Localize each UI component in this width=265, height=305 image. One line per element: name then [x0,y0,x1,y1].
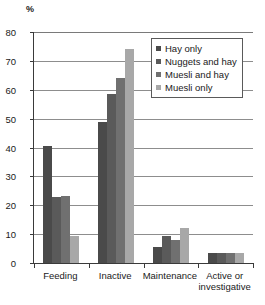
legend-label: Muesli and hay [165,70,229,80]
legend-item: Muesli and hay [156,68,237,81]
legend-item: Muesli only [156,81,237,94]
y-tick-mark [30,205,34,206]
category-label: Active or investigative [197,270,252,292]
bar [226,253,235,263]
legend-swatch-icon [156,59,161,64]
y-tick-label: 50 [0,115,16,124]
x-tick-mark [198,263,199,268]
bar [116,78,125,263]
y-tick-mark [30,234,34,235]
legend-item: Hay only [156,42,237,55]
y-tick-mark [30,119,34,120]
y-tick-mark [30,32,34,33]
y-tick-label: 30 [0,172,16,181]
legend: Hay onlyNuggets and hayMuesli and hayMue… [151,38,243,98]
y-tick-label: 40 [0,144,16,153]
y-tick-mark [30,90,34,91]
y-tick-label: 80 [0,28,16,37]
bar [61,196,70,263]
bar [98,122,107,263]
bar-group [98,32,134,263]
y-axis-unit-label: % [26,4,34,14]
y-tick-label: 20 [0,201,16,210]
legend-label: Muesli only [165,83,213,93]
bar [153,247,162,263]
x-tick-mark [34,263,35,268]
bar [180,228,189,263]
legend-item: Nuggets and hay [156,55,237,68]
category-label: Feeding [33,270,88,281]
y-tick-label: 70 [0,57,16,66]
category-label: Maintenance [143,270,198,281]
bar [217,253,226,263]
x-tick-mark [144,263,145,268]
category-label: Inactive [88,270,143,281]
bar [162,236,171,263]
bar [43,146,52,263]
legend-swatch-icon [156,85,161,90]
y-tick-label: 0 [0,259,16,268]
bar [208,253,217,263]
x-tick-mark [89,263,90,268]
y-tick-label: 60 [0,86,16,95]
y-tick-mark [30,61,34,62]
legend-label: Nuggets and hay [165,57,237,67]
bar [70,236,79,263]
bar-chart: % 01020304050607080 FeedingInactiveMaint… [0,0,265,305]
bar [171,240,180,263]
bar [52,197,61,263]
bar [125,49,134,263]
legend-label: Hay only [165,44,202,54]
bar [107,94,116,263]
legend-swatch-icon [156,46,161,51]
bar [235,253,244,263]
legend-swatch-icon [156,72,161,77]
x-tick-mark [253,263,254,268]
y-tick-mark [30,148,34,149]
bar-group [43,32,79,263]
y-tick-mark [30,176,34,177]
y-tick-label: 10 [0,230,16,239]
